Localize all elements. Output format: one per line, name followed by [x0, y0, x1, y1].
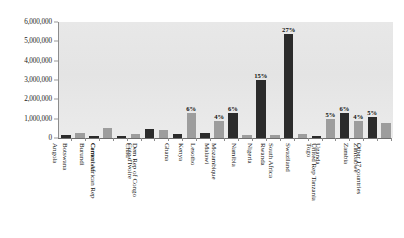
- bar-slot: [59, 22, 73, 138]
- bar-slot: [101, 22, 115, 138]
- bar: [326, 119, 335, 138]
- bar-slot: [379, 22, 393, 138]
- bar-slot: [156, 22, 170, 138]
- bar-data-label: 6%: [228, 105, 238, 112]
- bar-slot: 5%: [324, 22, 338, 138]
- bar-slot: 6%: [337, 22, 351, 138]
- bar-slot: [240, 22, 254, 138]
- bar: [159, 130, 168, 138]
- x-axis-tick: [142, 138, 156, 142]
- y-axis-tick-mark: [54, 41, 58, 42]
- bar: [103, 128, 112, 138]
- x-axis-tick: [309, 138, 323, 142]
- y-axis-tick-label: 2,000,000: [0, 95, 52, 103]
- bar-series: 6%4%6%15%27%5%6%4%5%: [59, 22, 393, 138]
- x-axis-tick: [100, 138, 114, 142]
- y-axis-tick-mark: [54, 80, 58, 81]
- bar-data-label: 4%: [353, 113, 363, 120]
- x-axis-labels: AngolaBotswanaBurundiCameroonCentral Afr…: [58, 143, 392, 238]
- y-axis-tick-mark: [54, 99, 58, 100]
- bar: [340, 113, 349, 138]
- bar: [214, 121, 223, 138]
- x-axis-label: Nigeria: [246, 143, 254, 164]
- x-axis-tick: [364, 138, 378, 142]
- y-axis-tick-label: 6,000,000: [0, 18, 52, 26]
- x-axis-tick: [323, 138, 337, 142]
- x-axis-label: Ghana: [163, 143, 171, 161]
- x-axis-label: Angola: [51, 143, 59, 163]
- bar-data-label: 4%: [214, 113, 224, 120]
- x-axis-tick: [197, 138, 211, 142]
- bar-slot: 27%: [282, 22, 296, 138]
- y-axis-tick-label: 0: [0, 134, 52, 142]
- y-axis-tick-mark: [54, 22, 58, 23]
- bar-slot: 4%: [212, 22, 226, 138]
- bar-chart: 6,000,0005,000,0004,000,0003,000,0002,00…: [0, 0, 404, 238]
- x-axis-label: Namibia: [230, 143, 238, 167]
- x-axis-label: South Africa: [266, 143, 274, 178]
- x-axis-tick: [239, 138, 253, 142]
- bar-data-label: 15%: [254, 72, 267, 79]
- x-axis-label: Botswana: [61, 143, 69, 170]
- x-axis-label: Kenya: [177, 143, 185, 161]
- bar-slot: [198, 22, 212, 138]
- bar-slot: [268, 22, 282, 138]
- x-axis-label: Dem Rep of Congo: [131, 143, 139, 197]
- bar-data-label: 5%: [326, 111, 336, 118]
- x-axis-label-cell: Swaziland: [295, 143, 309, 238]
- bar-data-label: 27%: [282, 26, 295, 33]
- x-axis-label: Mozambique: [210, 143, 218, 179]
- x-axis-label: Other 17 countries: [356, 143, 364, 194]
- bar-slot: 15%: [254, 22, 268, 138]
- x-axis-tick: [378, 138, 392, 142]
- y-axis-tick-mark: [54, 118, 58, 119]
- x-axis-label: Central African Rep: [89, 143, 97, 198]
- y-axis-tick-label: 1,000,000: [0, 115, 52, 123]
- bar: [228, 113, 237, 138]
- y-axis-tick-label: 3,000,000: [0, 76, 52, 84]
- bar-slot: [87, 22, 101, 138]
- bar-data-label: 6%: [339, 105, 349, 112]
- x-axis-tick: [86, 138, 100, 142]
- x-axis-tick: [336, 138, 350, 142]
- x-axis-tick: [169, 138, 183, 142]
- x-axis-tick: [155, 138, 169, 142]
- y-axis-tick-label: 4,000,000: [0, 57, 52, 65]
- y-axis-tick-mark: [54, 60, 58, 61]
- bar: [354, 121, 363, 138]
- bar: [381, 123, 390, 138]
- x-axis-tick: [58, 138, 72, 142]
- bar-slot: [129, 22, 143, 138]
- bar-slot: [73, 22, 87, 138]
- y-axis: 6,000,0005,000,0004,000,0003,000,0002,00…: [0, 22, 52, 138]
- x-axis-label-cell: Zimbabwe: [364, 143, 378, 238]
- x-axis-label-cell: Cameroon: [100, 143, 114, 238]
- x-axis-tick: [114, 138, 128, 142]
- x-axis-tick: [267, 138, 281, 142]
- x-axis-tick: [211, 138, 225, 142]
- bar: [256, 80, 265, 138]
- x-axis-tick: [225, 138, 239, 142]
- bar-slot: [296, 22, 310, 138]
- y-axis-tick-label: 5,000,000: [0, 37, 52, 45]
- bar-data-label: 6%: [186, 105, 196, 112]
- x-axis-tick: [281, 138, 295, 142]
- x-axis-tick: [128, 138, 142, 142]
- x-axis-label: United Rep Tanzania: [310, 143, 318, 201]
- bar-slot: 4%: [351, 22, 365, 138]
- x-axis-tick: [183, 138, 197, 142]
- x-axis-label: Burundi: [77, 143, 85, 166]
- x-axis-tick: [350, 138, 364, 142]
- y-axis-tick-mark: [54, 138, 58, 139]
- bar: [368, 117, 377, 138]
- x-axis-label-cell: Other 17 countries: [378, 143, 392, 238]
- x-axis-label: Swaziland: [283, 143, 291, 172]
- x-axis-label: Zambia: [343, 143, 351, 164]
- bar-slot: [310, 22, 324, 138]
- bar-slot: 6%: [226, 22, 240, 138]
- bar-slot: [143, 22, 157, 138]
- x-axis-tick: [72, 138, 86, 142]
- bar-slot: [115, 22, 129, 138]
- x-axis-label: Lesotho: [189, 143, 197, 165]
- bar-slot: 6%: [184, 22, 198, 138]
